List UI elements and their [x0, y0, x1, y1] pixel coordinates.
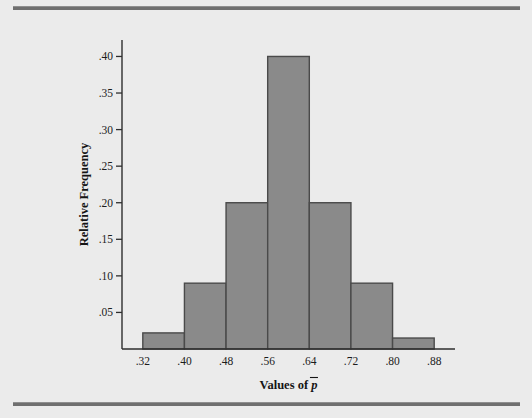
x-axis-tick-label: .80 — [385, 355, 400, 367]
x-axis-tick-label: .72 — [344, 355, 359, 367]
histogram-bar — [143, 333, 185, 349]
y-axis-tick-label: .40 — [99, 50, 114, 62]
histogram-bar — [393, 338, 435, 349]
y-axis-tick-label: .10 — [99, 270, 114, 282]
histogram-bars — [143, 56, 434, 349]
y-axis-tick-label: .35 — [99, 87, 114, 99]
y-axis-tick-label: .25 — [99, 160, 114, 172]
histogram-bar — [226, 203, 268, 349]
x-axis-tick-label: .48 — [219, 355, 234, 367]
y-axis-tick-label: .15 — [99, 233, 114, 245]
y-axis-tick-label: .20 — [99, 197, 114, 209]
y-axis-title: Relative Frequency — [77, 142, 91, 246]
histogram-bar — [309, 203, 351, 349]
histogram-figure: .32.40.48.56.64.72.80.88 .05.10.15.20.25… — [0, 0, 532, 418]
x-axis-tick-label: .56 — [261, 355, 276, 367]
x-axis-tick-label: .64 — [302, 355, 317, 367]
histogram-plot: .32.40.48.56.64.72.80.88 .05.10.15.20.25… — [0, 0, 532, 418]
histogram-bar — [184, 283, 226, 349]
x-axis-tick-label: .32 — [136, 355, 151, 367]
x-axis-tick-labels: .32.40.48.56.64.72.80.88 — [136, 355, 442, 367]
x-axis-title: Values of p — [260, 378, 318, 392]
x-axis-tick-label: .88 — [427, 355, 442, 367]
histogram-bar — [351, 283, 393, 349]
y-axis-tick-labels: .05.10.15.20.25.30.35.40 — [99, 50, 122, 318]
histogram-bar — [268, 56, 310, 349]
y-axis-tick-label: .30 — [99, 124, 114, 136]
x-axis-tick-label: .40 — [177, 355, 192, 367]
y-axis-tick-label: .05 — [99, 306, 114, 318]
